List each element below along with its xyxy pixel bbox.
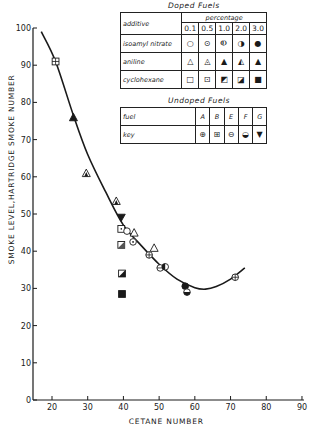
percentage-header: percentage xyxy=(182,13,267,23)
marker-key-icon: ◑ xyxy=(233,35,250,53)
marker-key-icon: ⊞ xyxy=(210,126,224,144)
additive-label: aniline xyxy=(121,53,182,71)
percentage-col-2: 1.0 xyxy=(216,23,233,35)
marker-key-icon: □ xyxy=(182,71,199,89)
marker-key-icon: ◪ xyxy=(233,71,250,89)
x-tick-label: 40 xyxy=(118,403,128,412)
additive-label: cyclohexane xyxy=(121,71,182,89)
fuel-label: E xyxy=(224,108,238,126)
marker-key-icon: ⊙ xyxy=(199,35,216,53)
marker-key-icon: ⊕ xyxy=(196,126,210,144)
marker-key-icon: ○ xyxy=(182,35,199,53)
fuel-label: A xyxy=(196,108,210,126)
additive-label: isoamyl nitrate xyxy=(121,35,182,53)
x-tick-label: 50 xyxy=(154,403,164,412)
square-slash-icon xyxy=(118,241,125,248)
marker-key-icon: ● xyxy=(250,35,267,53)
y-tick-label: 20 xyxy=(21,322,31,331)
undoped-fuels-caption: Undoped Fuels xyxy=(168,96,230,105)
marker-key-icon: ⦶ xyxy=(216,35,233,53)
square-plus-icon xyxy=(52,58,59,65)
marker-key-icon: ▲ xyxy=(216,53,233,71)
marker-key-icon: △ xyxy=(182,53,199,71)
y-axis-label: SMOKE LEVEL,HARTRIDGE SMOKE NUMBER xyxy=(7,75,16,265)
doped-fuels-caption: Doped Fuels xyxy=(168,1,220,10)
square-filled-icon xyxy=(119,291,126,298)
additive-header: additive xyxy=(121,13,182,35)
triangle-filled-icon xyxy=(69,113,77,121)
y-tick-label: 50 xyxy=(21,210,31,219)
y-tick-label: 70 xyxy=(21,136,31,145)
marker-key-icon: ■ xyxy=(250,71,267,89)
marker-key-icon: ▲ xyxy=(250,53,267,71)
marker-key-icon: ◬ xyxy=(199,53,216,71)
fuel-label: F xyxy=(238,108,253,126)
percentage-col-3: 2.0 xyxy=(233,23,250,35)
y-tick-label: 0 xyxy=(26,396,31,405)
x-tick-label: 60 xyxy=(190,403,200,412)
circle-open-icon xyxy=(124,228,131,235)
x-tick-label: 20 xyxy=(47,403,57,412)
y-tick-label: 40 xyxy=(21,247,31,256)
y-tick-label: 10 xyxy=(21,359,31,368)
percentage-col-1: 0.5 xyxy=(199,23,216,35)
square-half-icon xyxy=(119,270,126,277)
marker-key-icon: ⊖ xyxy=(224,126,238,144)
circle-bottom-filled-icon xyxy=(184,289,191,296)
triangle-half-icon xyxy=(112,197,120,205)
marker-key-icon: ▼ xyxy=(253,126,267,144)
y-tick-label: 30 xyxy=(21,284,31,293)
circle-plus-icon xyxy=(146,252,153,259)
triangle-half-icon xyxy=(82,169,90,177)
y-tick-label: 100 xyxy=(16,24,31,33)
y-tick-label: 60 xyxy=(21,173,31,182)
circle-half-icon xyxy=(162,264,169,271)
percentage-col-0: 0.1 xyxy=(182,23,199,35)
x-tick-label: 70 xyxy=(225,403,235,412)
undoped-fuels-table: fuelABEFG key⊕⊞⊖◒▼ xyxy=(120,107,267,144)
circle-dot-icon xyxy=(130,239,137,246)
x-tick-label: 90 xyxy=(297,403,307,412)
key-header: key xyxy=(121,126,196,144)
marker-key-icon: ◭ xyxy=(233,53,250,71)
y-tick-label: 90 xyxy=(21,61,31,70)
doped-fuels-table: additive percentage 0.10.51.02.03.0 isoa… xyxy=(120,12,267,89)
circle-plus-icon xyxy=(232,274,239,281)
fuel-label: B xyxy=(210,108,224,126)
x-axis-label: CETANE NUMBER xyxy=(129,417,204,426)
percentage-col-4: 3.0 xyxy=(250,23,267,35)
marker-key-icon: ◩ xyxy=(216,71,233,89)
triangle-open-icon xyxy=(150,244,158,252)
x-tick-label: 30 xyxy=(83,403,93,412)
fuel-label: G xyxy=(253,108,267,126)
triangle-open-icon xyxy=(130,229,138,237)
marker-key-icon: ⊡ xyxy=(199,71,216,89)
fuel-header: fuel xyxy=(121,108,196,126)
x-tick-label: 80 xyxy=(261,403,271,412)
marker-key-icon: ◒ xyxy=(238,126,253,144)
y-tick-label: 80 xyxy=(21,98,31,107)
